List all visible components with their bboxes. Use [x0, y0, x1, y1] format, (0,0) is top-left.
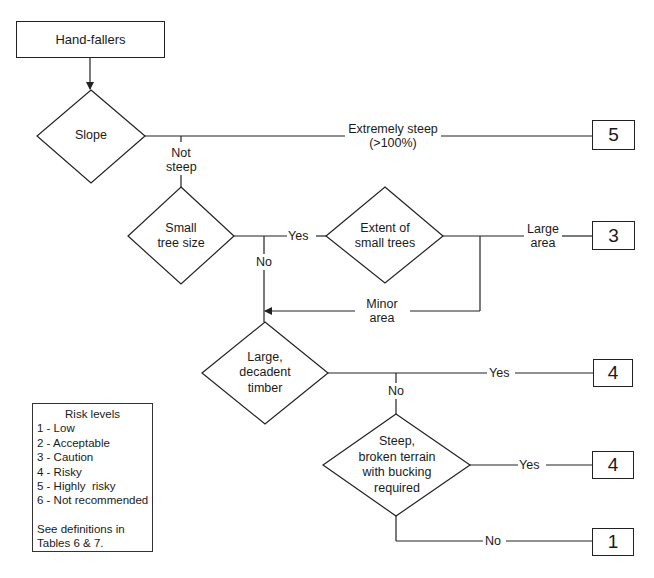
legend-item: 6 - Not recommended — [37, 493, 152, 507]
decision-text: with bucking — [363, 465, 432, 481]
result-value: 5 — [608, 124, 619, 146]
result-box-1: 1 — [592, 528, 634, 556]
result-value: 4 — [608, 454, 619, 476]
edge-label-decadent-no: No — [388, 384, 404, 398]
legend-note: Tables 6 & 7. — [37, 536, 152, 550]
result-value: 1 — [608, 531, 619, 553]
start-box-hand-fallers: Hand-fallers — [16, 21, 165, 58]
result-box-4-decadent: 4 — [593, 359, 633, 387]
edge-label-line: steep — [166, 160, 196, 174]
edge-label-line: Large — [525, 222, 561, 236]
edge-label-not-steep: Not steep — [166, 146, 196, 174]
start-label: Hand-fallers — [55, 32, 125, 47]
edge-label-small-yes: Yes — [288, 229, 308, 243]
result-value: 3 — [608, 225, 619, 247]
edge-label-line: Extremely steep — [345, 122, 441, 136]
result-box-4-terrain: 4 — [592, 451, 634, 479]
legend-item: 4 - Risky — [37, 465, 152, 479]
edge-label-decadent-yes: Yes — [489, 366, 509, 380]
decision-text: Large, — [247, 350, 282, 366]
edge-label-line: Minor — [356, 297, 408, 311]
edge-label-minor-area: Minor area — [356, 297, 408, 325]
decision-label-slope: Slope — [41, 120, 141, 152]
decision-text: Small — [165, 221, 196, 237]
result-box-3: 3 — [592, 221, 635, 250]
decision-text: Steep, — [379, 434, 415, 450]
decision-text: tree size — [157, 236, 204, 252]
decision-label-steep-broken-terrain: Steep, broken terrain with bucking requi… — [336, 432, 458, 498]
edge-label-line: Not — [166, 146, 196, 160]
edge-label-small-no: No — [256, 255, 272, 269]
edge-label-extremely-steep: Extremely steep (>100%) — [345, 122, 441, 150]
result-value: 4 — [608, 362, 619, 384]
decision-label-small-tree-size: Small tree size — [131, 214, 231, 258]
legend-spacer — [37, 508, 152, 522]
legend-item: 1 - Low — [37, 421, 152, 435]
decision-label-extent-small-trees: Extent of small trees — [330, 214, 440, 258]
edge-label-terrain-yes: Yes — [519, 458, 539, 472]
decision-text: timber — [248, 381, 283, 397]
decision-text: broken terrain — [358, 450, 435, 466]
decision-text: decadent — [239, 365, 290, 381]
legend-note: See definitions in — [37, 522, 152, 536]
decision-text: small trees — [355, 236, 415, 252]
decision-label-large-decadent-timber: Large, decadent timber — [210, 348, 320, 398]
legend-item: 2 - Acceptable — [37, 436, 152, 450]
risk-levels-legend: Risk levels 1 - Low 2 - Acceptable 3 - C… — [32, 403, 153, 552]
legend-item: 3 - Caution — [37, 450, 152, 464]
decision-text: Slope — [75, 128, 107, 144]
edge-label-line: (>100%) — [345, 136, 441, 150]
decision-text: required — [374, 481, 420, 497]
legend-title: Risk levels — [37, 407, 152, 421]
decision-text: Extent of — [360, 221, 409, 237]
edge-label-line: area — [356, 311, 408, 325]
edge-label-large-area: Large area — [525, 222, 561, 250]
result-box-5: 5 — [592, 120, 635, 150]
legend-item: 5 - Highly risky — [37, 479, 152, 493]
edge-label-terrain-no: No — [485, 534, 501, 548]
edge-label-line: area — [525, 236, 561, 250]
